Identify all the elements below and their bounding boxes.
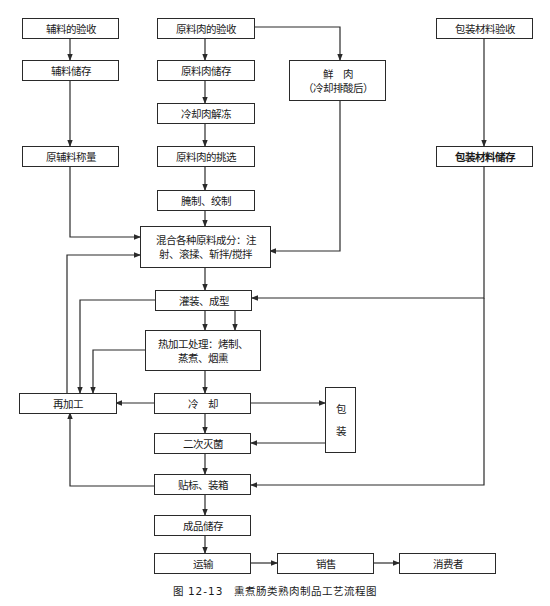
edge-meat-receive-to-fresh [255, 27, 340, 60]
edge-heat-to-rework [93, 350, 145, 393]
edge-weigh-to-mix [70, 166, 140, 237]
node-cool: 冷 却 [154, 393, 251, 414]
edge-pack-store-to-label [251, 298, 484, 485]
node-pack-store: 包装材料储存 [436, 146, 533, 167]
node-meat-store: 原料肉储存 [157, 60, 255, 81]
edge-rework-to-mix [67, 255, 140, 393]
node-select: 原料肉的挑选 [157, 146, 255, 167]
node-mix: 混合各种原料成分：注 射、滚揉、斩拌/搅拌 [140, 226, 271, 268]
node-meat-receive: 原料肉的验收 [157, 18, 255, 39]
node-sales: 销售 [277, 553, 374, 574]
node-label-box: 贴标、装箱 [154, 474, 251, 495]
node-thaw: 冷却肉解冻 [157, 103, 255, 124]
edge-fresh-to-mix [270, 100, 340, 251]
packaging-char-2: 装 [336, 424, 346, 438]
edge-pack-store-to-fill [252, 166, 484, 298]
node-aux-store: 辅料储存 [22, 60, 119, 81]
packaging-char-1: 包 [336, 402, 346, 416]
node-pack-receive: 包装材料验收 [436, 18, 533, 39]
node-product-store: 成品储存 [154, 515, 251, 536]
edge-fill-to-rework [80, 300, 155, 393]
edge-label-to-rework [70, 413, 154, 486]
node-rework: 再加工 [19, 393, 117, 414]
node-fresh-meat: 鲜 肉 （冷却排酸后） [289, 60, 386, 101]
node-aux-weigh: 原辅料称量 [22, 146, 119, 167]
node-cure-grind: 腌制、绞制 [157, 190, 255, 211]
node-heat: 热加工处理：烤制、 蒸煮、烟熏 [145, 330, 261, 371]
node-transport: 运输 [154, 553, 251, 574]
node-sterilize: 二次灭菌 [154, 433, 251, 454]
node-fill-form: 灌装、成型 [155, 290, 252, 311]
flow-connectors [0, 0, 550, 606]
node-consumer: 消费者 [399, 553, 496, 574]
figure-caption: 图 12-13 熏煮肠类熟肉制品工艺流程图 [0, 583, 550, 598]
node-aux-receive: 辅料的验收 [22, 18, 119, 39]
node-packaging: 包 装 [325, 387, 356, 453]
